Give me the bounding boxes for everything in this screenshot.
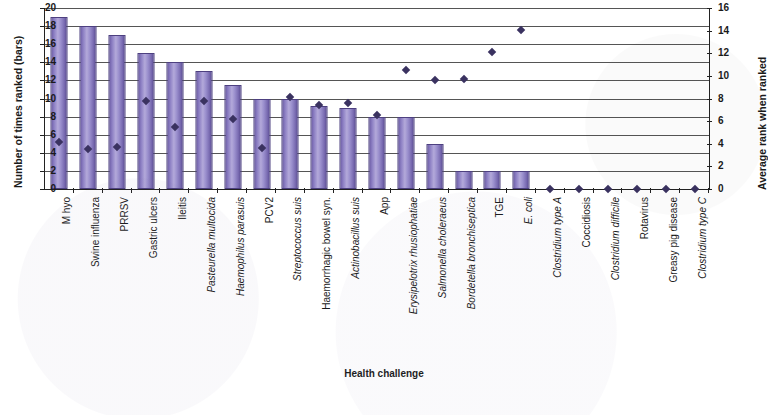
x-axis-label: Rotavirus [640, 197, 650, 239]
bar-group [536, 8, 565, 189]
chart-root: Number of times ranked (bars) Average ra… [0, 0, 768, 415]
bar [109, 35, 126, 189]
x-axis-label: Actinobacillus suis [351, 197, 361, 279]
x-axis-label: Greasy pig disease [669, 197, 679, 283]
x-axis-label: E. coli [524, 197, 534, 224]
x-axis-label: Clostridium type C [698, 197, 708, 279]
x-tick-mark [304, 188, 305, 193]
data-point-marker [402, 66, 410, 74]
x-tick-mark [593, 188, 594, 193]
data-point-marker [546, 185, 554, 193]
y-tick-mark-left [40, 117, 45, 118]
x-tick-mark [159, 188, 160, 193]
x-axis-label: TGE [495, 197, 505, 218]
y-tick-label-right: 10 [718, 71, 746, 81]
bar-group [594, 8, 623, 189]
bar-group [680, 8, 709, 189]
x-axis-label: Pasteurella multocida [207, 197, 217, 293]
bar [80, 26, 97, 189]
bar [397, 117, 414, 189]
bar-group [247, 8, 276, 189]
x-tick-mark [362, 188, 363, 193]
x-axis-label: Ileitis [178, 197, 188, 220]
x-axis-label: Clostridium difficile [611, 197, 621, 280]
bar [368, 117, 385, 189]
x-axis-label: PRRSV [120, 197, 130, 231]
y-tick-mark-left [40, 26, 45, 27]
bar [513, 171, 530, 189]
x-tick-mark [390, 188, 391, 193]
x-axis-label: Gastric ulcers [149, 197, 159, 258]
x-tick-mark [708, 188, 709, 193]
x-axis-label: Coccidiosis [582, 197, 592, 248]
data-point-marker [488, 48, 496, 56]
bar-group [160, 8, 189, 189]
bar-group [276, 8, 305, 189]
x-tick-mark [333, 188, 334, 193]
y-tick-mark-right [707, 166, 712, 167]
y-tick-label-right: 0 [718, 184, 746, 194]
x-tick-mark [275, 188, 276, 193]
y-tick-mark-right [707, 144, 712, 145]
bar-group [478, 8, 507, 189]
y-tick-mark-left [40, 171, 45, 172]
x-axis-label: Streptococcus suis [293, 197, 303, 281]
bar-group [420, 8, 449, 189]
x-axis-label: M hyo [62, 197, 72, 224]
y-tick-mark-right [707, 8, 712, 9]
y-tick-mark-left [40, 135, 45, 136]
y-tick-label-right: 16 [718, 3, 746, 13]
x-tick-mark [621, 188, 622, 193]
data-point-marker [430, 76, 438, 84]
y-tick-mark-right [707, 99, 712, 100]
bar-group [189, 8, 218, 189]
bar-group [103, 8, 132, 189]
x-tick-mark [131, 188, 132, 193]
y-tick-label-right: 4 [718, 139, 746, 149]
y-tick-label-right: 2 [718, 161, 746, 171]
x-tick-mark [477, 188, 478, 193]
x-tick-mark [506, 188, 507, 193]
y-tick-mark-left [40, 80, 45, 81]
bar-group [507, 8, 536, 189]
data-point-marker [661, 185, 669, 193]
bar [282, 99, 299, 190]
x-tick-mark [448, 188, 449, 193]
data-point-marker [633, 185, 641, 193]
bar-group [74, 8, 103, 189]
bar [455, 171, 472, 189]
bar-group [449, 8, 478, 189]
bar-group [132, 8, 161, 189]
x-axis-label: Swine influenza [91, 197, 101, 267]
bar [311, 106, 328, 189]
y-tick-mark-right [707, 31, 712, 32]
x-axis-label: Clostridium type A [553, 197, 563, 278]
bar [340, 108, 357, 189]
bar [224, 85, 241, 189]
y-tick-mark-left [40, 153, 45, 154]
plot-area [44, 8, 710, 190]
y-tick-mark-left [40, 99, 45, 100]
x-tick-mark [564, 188, 565, 193]
bar [484, 171, 501, 189]
bar-group [334, 8, 363, 189]
bar-group [651, 8, 680, 189]
x-axis-label: Bordetella bronchiseptica [467, 197, 477, 309]
bar [138, 53, 155, 189]
data-point-marker [690, 185, 698, 193]
y-tick-label-right: 8 [718, 94, 746, 104]
y-tick-label-right: 14 [718, 26, 746, 36]
y-tick-mark-left [40, 44, 45, 45]
y-axis-left-title: Number of times ranked (bars) [12, 36, 24, 188]
x-tick-mark [535, 188, 536, 193]
data-point-marker [575, 185, 583, 193]
y-tick-mark-right [707, 76, 712, 77]
x-tick-mark [679, 188, 680, 193]
bar-group [622, 8, 651, 189]
y-tick-label-right: 12 [718, 48, 746, 58]
x-tick-mark [102, 188, 103, 193]
x-axis-label: Erysipelotrix rhusiophatiae [409, 197, 419, 314]
x-axis-label: Haemorrhagic bowel syn. [322, 197, 332, 310]
x-axis-label: PCV2 [265, 197, 275, 223]
data-point-marker [604, 185, 612, 193]
